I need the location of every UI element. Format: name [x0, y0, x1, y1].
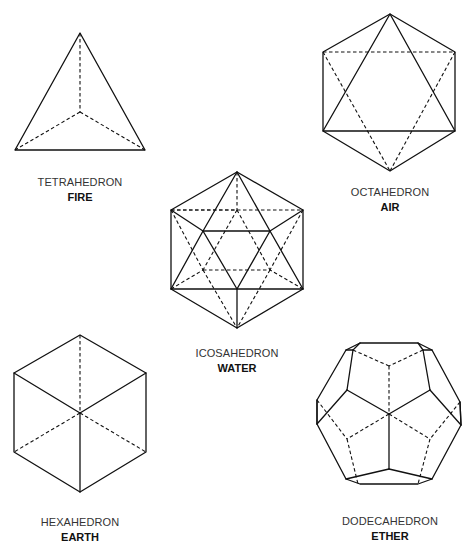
octahedron-label: OCTAHEDRON AIR	[320, 185, 460, 215]
icosahedron-drawing	[171, 172, 303, 328]
solid-name: DODECAHEDRON	[320, 514, 460, 529]
dodecahedron-drawing	[317, 343, 461, 484]
hexahedron-label: HEXAHEDRON EARTH	[10, 515, 150, 545]
tetrahedron-drawing	[15, 33, 145, 150]
solid-name: HEXAHEDRON	[10, 515, 150, 530]
solid-name: ICOSAHEDRON	[167, 346, 307, 361]
octahedron-drawing	[323, 14, 455, 171]
dodecahedron-label: DODECAHEDRON ETHER	[320, 514, 460, 544]
hexahedron-drawing	[14, 335, 146, 492]
element-name: WATER	[167, 361, 307, 376]
element-name: ETHER	[320, 529, 460, 544]
element-name: AIR	[320, 200, 460, 215]
solid-name: OCTAHEDRON	[320, 185, 460, 200]
element-name: EARTH	[10, 530, 150, 545]
solid-name: TETRAHEDRON	[10, 175, 150, 190]
icosahedron-label: ICOSAHEDRON WATER	[167, 346, 307, 376]
tetrahedron-label: TETRAHEDRON FIRE	[10, 175, 150, 205]
element-name: FIRE	[10, 190, 150, 205]
platonic-solids-diagram	[0, 0, 471, 556]
